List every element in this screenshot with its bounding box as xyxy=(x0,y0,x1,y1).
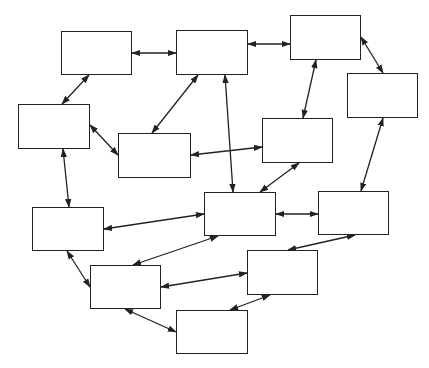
bidirectional-arrow-m-j xyxy=(230,295,270,310)
node-box-j xyxy=(176,310,248,354)
bidirectional-arrow-e-f xyxy=(361,37,383,73)
node-box-g xyxy=(262,118,333,163)
node-box-e xyxy=(290,15,361,60)
bidirectional-arrow-a-b xyxy=(62,75,89,104)
bidirectional-arrow-m-i xyxy=(161,273,247,287)
node-box-k xyxy=(204,192,276,236)
bidirectional-arrow-i-j xyxy=(125,309,176,332)
bidirectional-arrow-g-k xyxy=(260,163,299,192)
bidirectional-arrow-b-c xyxy=(90,125,118,155)
bidirectional-arrow-h-i xyxy=(67,251,90,287)
bidirectional-arrow-k-i xyxy=(133,236,218,265)
node-box-d xyxy=(176,30,248,75)
network-diagram xyxy=(0,0,429,368)
bidirectional-arrow-l-m xyxy=(288,235,355,250)
bidirectional-arrow-g-c xyxy=(191,147,262,155)
bidirectional-arrow-k-h xyxy=(104,214,204,229)
bidirectional-arrow-c-d xyxy=(152,75,198,133)
bidirectional-arrow-f-l xyxy=(361,118,383,191)
node-box-f xyxy=(347,73,418,118)
node-box-i xyxy=(90,265,161,309)
bidirectional-arrow-b-h xyxy=(63,149,69,207)
node-box-c xyxy=(118,133,191,178)
node-box-l xyxy=(318,191,389,235)
node-box-h xyxy=(32,207,104,251)
node-box-a xyxy=(61,31,132,75)
bidirectional-arrow-e-g xyxy=(303,60,316,118)
bidirectional-arrow-d-k xyxy=(225,75,233,192)
node-box-b xyxy=(18,104,90,149)
node-box-m xyxy=(247,250,318,295)
